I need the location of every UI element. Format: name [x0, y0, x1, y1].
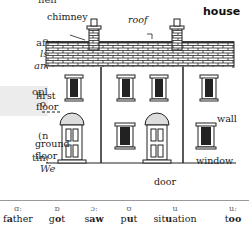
phonetic-item: ɔː saw	[80, 204, 108, 224]
chimney-right	[170, 19, 184, 50]
label-ground-floor-2: floor	[35, 151, 57, 161]
door-right	[143, 113, 171, 163]
chimney-left	[87, 19, 101, 50]
roof	[46, 42, 234, 67]
phonetic-item: u situation	[150, 204, 200, 224]
phonetic-item: uː too	[219, 204, 247, 224]
label-first-floor-2: floor	[36, 102, 58, 112]
label-window: window	[196, 156, 233, 166]
house-illustration	[40, 15, 245, 175]
phonetic-item: ɑː father	[0, 204, 36, 224]
label-first-floor-1: first	[36, 91, 56, 101]
label-chimney: chimney	[47, 12, 88, 22]
label-ground-floor-1: ground	[35, 139, 70, 149]
label-roof: roof	[128, 15, 148, 25]
phonetic-table: ɑː father ɒ got ɔː saw ʊ put u situation…	[0, 200, 249, 227]
text-fragment: hen	[38, 0, 57, 6]
label-wall: wall	[217, 114, 237, 124]
label-door: door	[154, 177, 176, 187]
phonetic-item: ɒ got	[45, 204, 69, 224]
phonetic-item: ʊ put	[117, 204, 141, 224]
